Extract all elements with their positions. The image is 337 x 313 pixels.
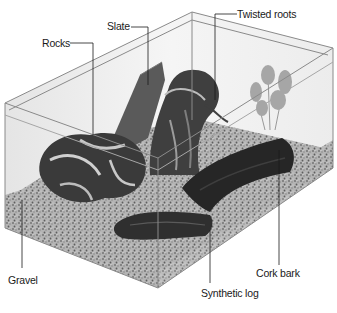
label-slate: Slate xyxy=(107,21,130,32)
aquarium-diagram: Slate Rocks Twisted roots Gravel Cork ba… xyxy=(0,0,337,313)
label-cork-bark: Cork bark xyxy=(256,268,300,279)
label-gravel: Gravel xyxy=(8,275,38,286)
label-rocks: Rocks xyxy=(42,38,70,49)
label-twisted-roots: Twisted roots xyxy=(237,9,296,20)
rocks xyxy=(39,133,145,202)
label-synthetic-log: Synthetic log xyxy=(201,288,259,299)
